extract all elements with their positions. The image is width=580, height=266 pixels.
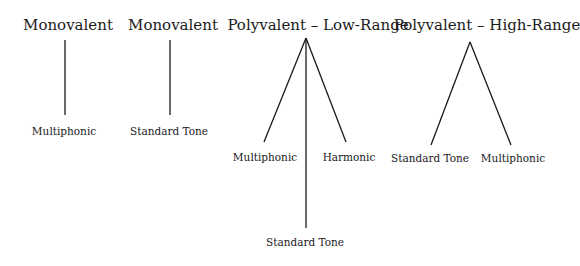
group-title-polyvalent-low: Polyvalent – Low-Range: [227, 16, 408, 34]
high-right-connector: [470, 42, 511, 145]
group-title-polyvalent-high: Polyvalent – High-Range: [394, 16, 580, 34]
leaf-standard-tone: Standard Tone: [130, 125, 208, 137]
leaf-standard-tone: Standard Tone: [391, 152, 469, 164]
leaf-multiphonic: Multiphonic: [32, 125, 96, 137]
high-left-connector: [431, 42, 470, 145]
group-title-monovalent-1: Monovalent: [23, 16, 113, 34]
group-title-monovalent-2: Monovalent: [128, 16, 218, 34]
low-left-connector: [264, 38, 306, 142]
leaf-multiphonic: Multiphonic: [481, 152, 545, 164]
low-right-connector: [306, 38, 346, 142]
leaf-standard-tone: Standard Tone: [266, 236, 344, 248]
leaf-multiphonic: Multiphonic: [233, 151, 297, 163]
leaf-harmonic: Harmonic: [323, 151, 376, 163]
